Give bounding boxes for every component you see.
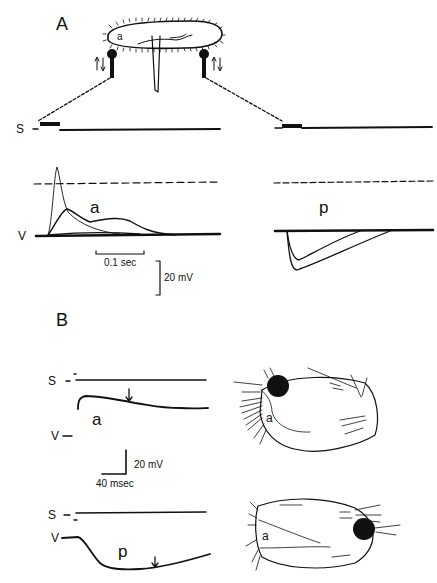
- organism-label-top: a: [266, 411, 273, 425]
- voltage-scale-label-b: 20 mV: [134, 459, 163, 470]
- anterior-response-label: a: [90, 198, 100, 217]
- stimulus-label-b-bottom: S: [48, 508, 56, 522]
- panel-b-label: B: [56, 310, 68, 330]
- posterior-projection-line: [206, 78, 282, 121]
- posterior-probe: [199, 49, 222, 78]
- zero-potential-line-posterior: [274, 181, 433, 183]
- ciliate-drawing-bottom: a: [246, 499, 400, 570]
- scale-bar-b: [102, 450, 126, 474]
- posterior-responses: [275, 230, 433, 270]
- anterior-responses: [36, 167, 220, 236]
- organism-label-bottom: a: [262, 529, 269, 543]
- voltage-scale-bar-a: [156, 261, 160, 295]
- stimulus-trace-b-bottom: [64, 512, 206, 520]
- stimulus-trace-posterior: [275, 124, 432, 128]
- posterior-response-label: p: [319, 198, 328, 217]
- voltage-scale-label-a: 20 mV: [164, 272, 193, 283]
- stimulus-trace-anterior: [33, 122, 220, 130]
- voltage-label-b-top: V: [51, 429, 59, 443]
- response-label-b-top: a: [92, 410, 102, 429]
- anterior-end-label: a: [117, 31, 123, 42]
- stimulus-label-b-top: S: [48, 374, 56, 388]
- panel-a-label: A: [56, 14, 68, 34]
- arrow-marker-bottom: [152, 557, 158, 567]
- time-scale-label-b: 40 msec: [96, 478, 134, 489]
- electrophysiology-figure: A a S V: [0, 0, 437, 583]
- voltage-trace-b-bottom: [62, 537, 210, 569]
- voltage-trace-b-top: [78, 389, 208, 409]
- time-scale-label-a: 0.1 sec: [104, 257, 136, 268]
- time-scale-bar-a: [96, 251, 144, 254]
- arrow-marker-top: [126, 389, 132, 401]
- stimulus-label-a: S: [16, 122, 24, 136]
- voltage-label-b-bottom: V: [51, 531, 59, 545]
- ciliate-drawing-top: a: [234, 368, 378, 451]
- stimulus-trace-b-top: [66, 374, 206, 381]
- zero-potential-line-anterior: [34, 182, 220, 184]
- anterior-probe: [95, 49, 117, 78]
- anterior-projection-line: [38, 78, 110, 121]
- response-label-b-bottom: p: [118, 542, 127, 561]
- voltage-label-a: V: [18, 229, 26, 243]
